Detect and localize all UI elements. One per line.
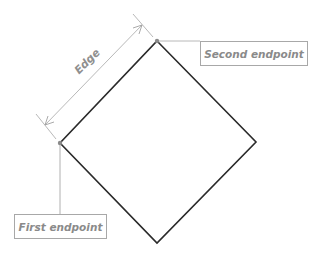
first-endpoint-label: First endpoint — [14, 214, 107, 239]
first-endpoint-dot — [58, 141, 62, 145]
extension-line-bottom — [36, 114, 56, 139]
second-endpoint-dot — [155, 39, 159, 43]
extension-line-top — [133, 14, 153, 37]
diamond-shape — [60, 41, 256, 243]
dimension-line — [45, 25, 142, 125]
second-endpoint-label: Second endpoint — [200, 41, 308, 66]
